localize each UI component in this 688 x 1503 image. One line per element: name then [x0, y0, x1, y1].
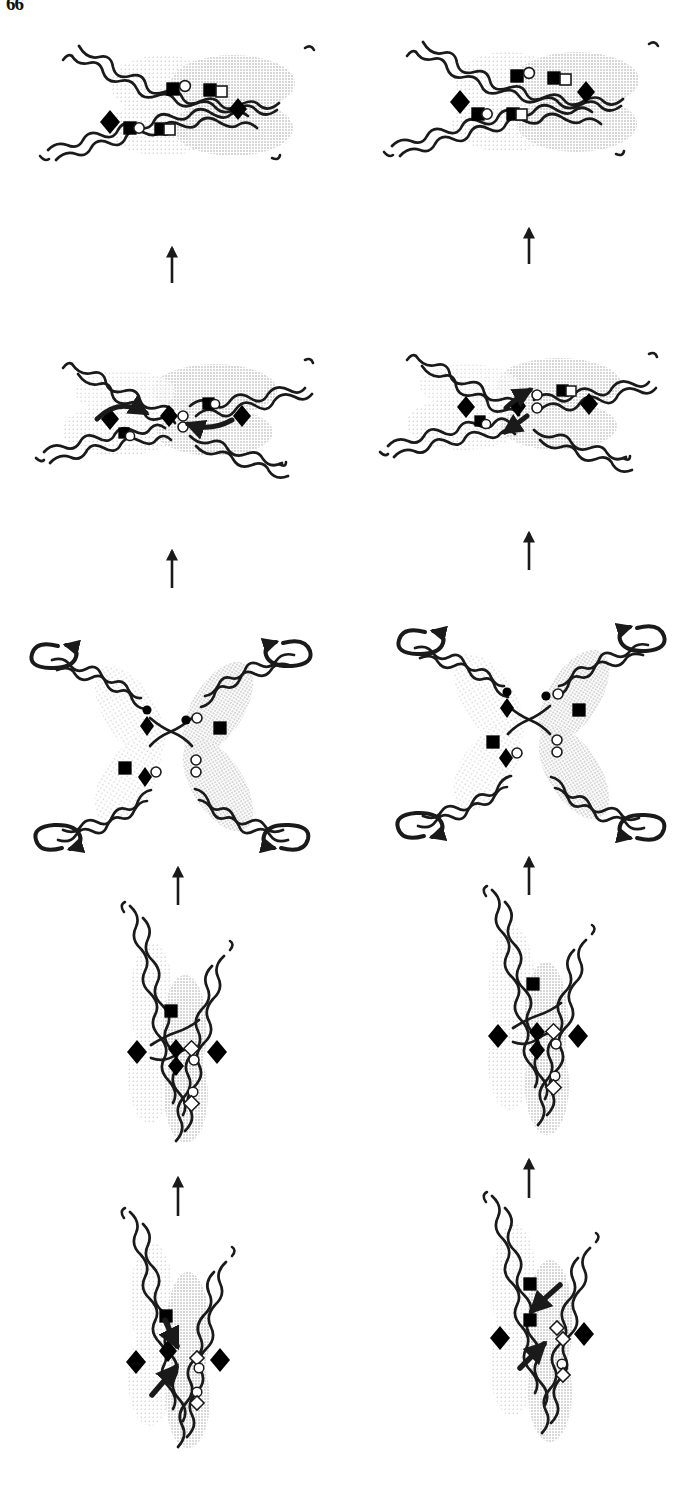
panel-r5-left-region — [30, 30, 330, 180]
step-arrow-left-3 — [160, 544, 186, 594]
step-arrow-right-4 — [517, 222, 543, 272]
panel-r1-left-region — [110, 1206, 250, 1456]
panel-r2-left-region — [110, 900, 250, 1130]
panel-r3-left-region — [22, 600, 322, 860]
step-arrow-right-3 — [517, 526, 543, 576]
panel-r4-left-region — [30, 340, 330, 480]
panel-r3-right-region — [386, 588, 686, 848]
step-arrow-left-4 — [160, 240, 186, 290]
figure-page: 66 — [0, 0, 688, 1503]
panel-r5-right-region — [374, 26, 674, 176]
panel-r2-right-region — [472, 884, 612, 1114]
panel-r4-right-region — [374, 334, 674, 474]
panel-r1-right-region — [472, 1190, 612, 1440]
